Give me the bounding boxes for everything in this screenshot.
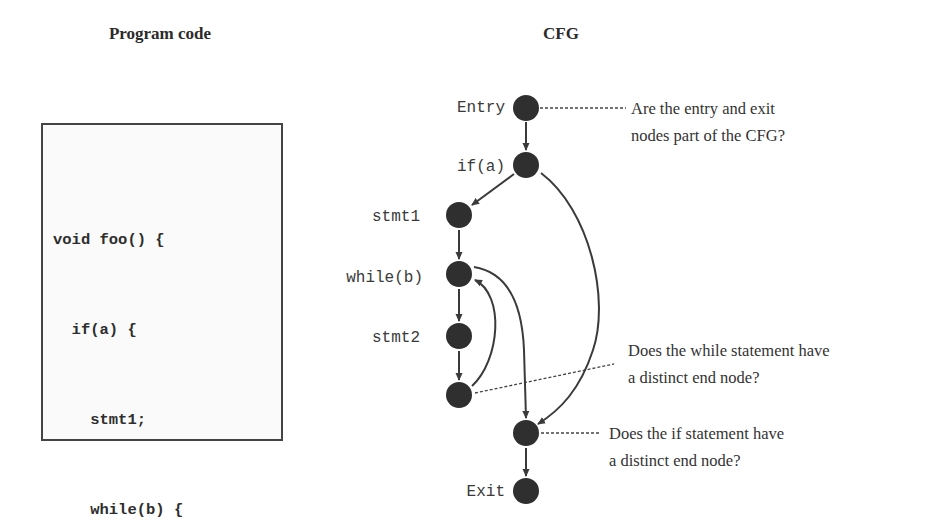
node-label-stmt1: stmt1 xyxy=(372,208,420,226)
cfg-graph xyxy=(0,0,949,531)
annotation-line: nodes part of the CFG? xyxy=(631,122,785,149)
annotation-entry-exit: Are the entry and exit nodes part of the… xyxy=(631,95,785,149)
node-if xyxy=(513,152,539,178)
edge-if-stmt1 xyxy=(472,174,514,205)
node-while-end xyxy=(446,382,472,408)
annotation-line: a distinct end node? xyxy=(609,447,784,474)
node-exit xyxy=(513,478,539,504)
annotation-if-end: Does the if statement have a distinct en… xyxy=(609,420,784,474)
annotation-leaders xyxy=(475,108,626,433)
edge-while-ifend xyxy=(474,267,526,418)
node-label-entry: Entry xyxy=(457,99,505,117)
annotation-line: Are the entry and exit xyxy=(631,95,785,122)
node-label-stmt2: stmt2 xyxy=(372,329,420,347)
edge-if-ifend xyxy=(538,173,599,424)
node-stmt1 xyxy=(446,202,472,228)
node-label-if: if(a) xyxy=(457,158,505,176)
node-stmt2 xyxy=(446,323,472,349)
edge-whileend-while xyxy=(472,280,495,386)
leader-while-end xyxy=(475,364,614,393)
node-entry xyxy=(513,95,539,121)
node-if-end xyxy=(513,420,539,446)
node-label-while: while(b) xyxy=(346,269,423,287)
annotation-while-end: Does the while statement have a distinct… xyxy=(628,337,830,391)
node-label-exit: Exit xyxy=(467,483,505,501)
node-while xyxy=(446,261,472,287)
annotation-line: a distinct end node? xyxy=(628,364,830,391)
annotation-line: Does the while statement have xyxy=(628,337,830,364)
annotation-line: Does the if statement have xyxy=(609,420,784,447)
